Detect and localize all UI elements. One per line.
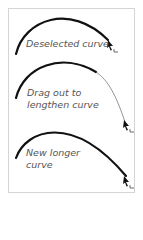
label-deselected: Deselected curve (26, 38, 109, 50)
label-drag: Drag out to lengthen curve (27, 87, 99, 111)
drag-extension (96, 72, 125, 122)
curve-pen-pointer-icon (123, 176, 134, 188)
label-new: New longer curve (26, 147, 80, 171)
curve-pen-pointer-icon (123, 120, 134, 132)
